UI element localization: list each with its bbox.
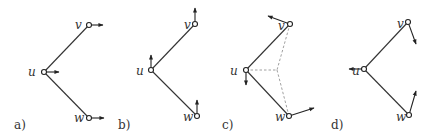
panel-label: c) <box>222 118 233 132</box>
node-label-u: u <box>352 64 360 78</box>
node-u <box>362 67 367 72</box>
node-u <box>244 68 249 73</box>
node-w <box>195 114 200 119</box>
panel-label: d) <box>331 118 343 132</box>
node-label-w: w <box>183 110 194 124</box>
node-label-u: u <box>28 65 36 79</box>
node-v <box>288 22 293 27</box>
edge-u-v <box>44 25 89 72</box>
node-w <box>87 116 92 121</box>
node-w <box>407 113 412 118</box>
panel-a: vuwa) <box>14 18 104 132</box>
velocity-arrow-icon <box>409 24 416 44</box>
node-v <box>193 22 198 27</box>
panel-label: a) <box>14 118 26 132</box>
node-label-w: w <box>74 111 85 125</box>
node-w <box>287 114 292 119</box>
node-label-v: v <box>397 17 404 31</box>
node-label-v: v <box>184 18 191 32</box>
panel-b: vuwb) <box>118 8 200 132</box>
node-label-u: u <box>230 64 238 78</box>
node-label-w: w <box>275 110 286 124</box>
node-label-w: w <box>396 110 407 124</box>
node-label-v: v <box>278 19 285 33</box>
node-u <box>149 68 154 73</box>
panel-label: b) <box>118 118 130 132</box>
node-u <box>42 70 47 75</box>
panel-c: vuwc) <box>222 16 314 132</box>
node-label-v: v <box>75 18 82 32</box>
velocity-diagram-figure: vuwa)vuwb)vuwc)vuwd) <box>0 0 433 135</box>
node-v <box>406 20 411 25</box>
node-v <box>87 23 92 28</box>
panel-d: vuwd) <box>331 17 416 132</box>
node-label-u: u <box>136 64 144 78</box>
velocity-arrow-icon <box>291 108 314 115</box>
edge-u-w <box>364 69 409 115</box>
velocity-arrow-icon <box>410 91 416 113</box>
